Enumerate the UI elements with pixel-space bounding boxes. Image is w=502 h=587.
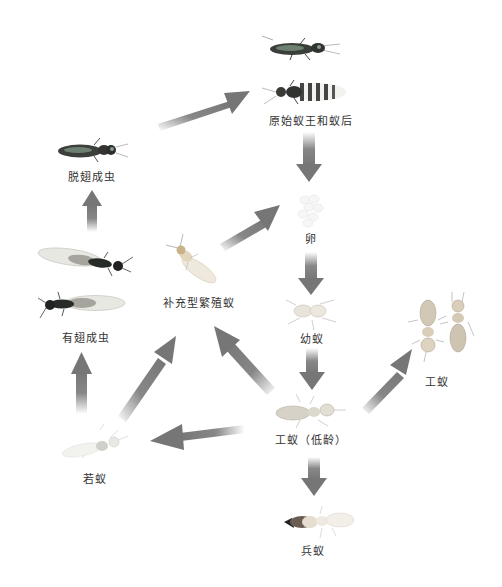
- label-egg: 卵: [305, 230, 317, 246]
- worker-termite-icon-2: [440, 292, 474, 352]
- young-worker-termite-icon: [276, 394, 346, 428]
- arrow-dealate-to-kingqueen: [158, 91, 250, 131]
- label-neotenic: 补充型繁殖蚁: [163, 294, 235, 310]
- arrow-youngworker-to-nymph: [150, 424, 245, 450]
- termite-life-cycle-diagram: 原始蚁王和蚁后 脱翅成虫 卵 有翅成虫 补充型繁殖蚁 幼蚁 工蚁 工蚁（低龄） …: [0, 0, 502, 587]
- arrow-nymph-to-alate: [71, 352, 92, 414]
- egg-cluster-icon: [298, 195, 323, 227]
- arrow-egg-to-larva: [298, 252, 324, 295]
- arrow-larva-to-youngworker: [299, 348, 325, 390]
- soldier-termite-icon: [284, 506, 354, 538]
- alate-termite-icon-2: [38, 292, 125, 318]
- alate-termite-icon-1: [37, 245, 133, 276]
- arrow-youngworker-to-worker: [362, 349, 412, 414]
- label-king-queen: 原始蚁王和蚁后: [269, 112, 353, 128]
- queen-termite-icon: [262, 80, 346, 104]
- arrow-nymph-to-neotenic: [118, 336, 176, 422]
- arrow-youngworker-to-soldier: [301, 457, 327, 496]
- label-dealate: 脱翅成虫: [68, 168, 116, 184]
- nymph-termite-icon: [61, 424, 128, 460]
- arrow-alate-to-dealate: [82, 190, 102, 232]
- dealate-termite-icon: [58, 138, 128, 162]
- label-worker: 工蚁: [425, 373, 449, 389]
- label-alate: 有翅成虫: [62, 329, 110, 345]
- arrow-neotenic-to-egg: [220, 205, 280, 251]
- arrow-youngworker-to-neotenic: [214, 326, 275, 395]
- worker-termite-icon-1: [408, 300, 446, 362]
- label-soldier: 兵蚁: [301, 542, 325, 558]
- label-larva: 幼蚁: [300, 330, 324, 346]
- label-young-worker: 工蚁（低龄）: [275, 431, 347, 447]
- label-nymph: 若蚁: [83, 470, 107, 486]
- arrow-kingqueen-to-egg: [296, 132, 322, 182]
- neotenic-reproductive-icon: [166, 234, 219, 287]
- king-termite-icon: [262, 36, 340, 60]
- arrows-layer: [0, 0, 502, 587]
- larva-termite-icon: [286, 300, 336, 330]
